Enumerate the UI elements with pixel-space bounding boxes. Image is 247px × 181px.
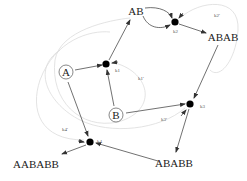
rate-k3: k3 [200,104,206,109]
rate-k4-reverse: k4' [62,127,68,132]
rate-k4: k4 [97,139,103,144]
rate-k3-reverse: k3' [161,117,167,122]
species-AABABB: AABABB [13,158,59,170]
species-AB: AB [128,5,143,17]
species-ABAB: ABAB [208,31,239,43]
labels-layer: A B AB ABAB ABABB AABABB k1 k1' k2 k2' k… [0,0,247,181]
rate-k1-reverse: k1' [138,76,144,81]
rate-k1: k1 [115,68,121,73]
species-A: A [62,66,70,78]
rate-k2-reverse: k2' [214,13,220,18]
species-ABABB: ABABB [155,157,193,169]
species-B: B [112,109,119,121]
rate-k2: k2 [173,29,179,34]
